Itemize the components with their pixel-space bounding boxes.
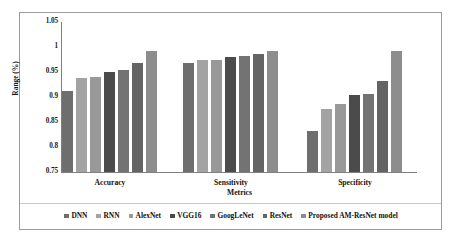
chart-legend: DNNRNNAlexNetVGG16GoogLeNetResNetPropose… bbox=[24, 209, 438, 223]
bar bbox=[76, 78, 87, 173]
legend-label: RNN bbox=[103, 212, 119, 219]
bar bbox=[307, 131, 318, 172]
x-tick-label: Specificity bbox=[307, 178, 403, 187]
bar-group-bars bbox=[183, 22, 279, 172]
chart-figure: Range (%) 1.05 1 0.95 0.9 0.85 0.8 0.75 … bbox=[0, 0, 461, 243]
legend-label: VGG16 bbox=[177, 212, 201, 219]
bar bbox=[363, 94, 374, 173]
y-tick-label: 0.9 bbox=[16, 93, 58, 100]
legend-item[interactable]: GoogLeNet bbox=[210, 212, 253, 219]
y-tick-label: 0.8 bbox=[16, 143, 58, 150]
bar-group-bars bbox=[62, 22, 158, 172]
x-tick-label: Accuracy bbox=[62, 178, 158, 187]
x-tick-label: Sensitivity bbox=[183, 178, 279, 187]
bar-group: Sensitivity bbox=[183, 22, 279, 172]
bar-group: Specificity bbox=[307, 22, 403, 172]
bar bbox=[211, 60, 222, 172]
legend-swatch-icon bbox=[263, 214, 268, 219]
x-axis-title: Metrics bbox=[62, 188, 417, 197]
legend-label: DNN bbox=[71, 212, 87, 219]
legend-swatch-icon bbox=[170, 214, 175, 219]
y-tick-label: 1 bbox=[16, 43, 58, 50]
bar bbox=[349, 95, 360, 172]
y-tick-label: 0.85 bbox=[16, 118, 58, 125]
bar bbox=[132, 63, 143, 172]
bar bbox=[118, 70, 129, 173]
legend-item[interactable]: ResNet bbox=[263, 212, 293, 219]
legend-item[interactable]: VGG16 bbox=[170, 212, 201, 219]
legend-label: ResNet bbox=[270, 212, 293, 219]
legend-item[interactable]: DNN bbox=[64, 212, 87, 219]
legend-swatch-icon bbox=[96, 214, 101, 219]
y-tick-label: 0.75 bbox=[16, 168, 58, 175]
legend-swatch-icon bbox=[129, 214, 134, 219]
bar bbox=[197, 60, 208, 172]
bar bbox=[253, 54, 264, 173]
legend-label: GoogLeNet bbox=[217, 212, 253, 219]
legend-divider bbox=[20, 203, 441, 204]
y-tick-label: 0.95 bbox=[16, 68, 58, 75]
bar bbox=[62, 91, 73, 172]
legend-swatch-icon bbox=[64, 214, 69, 219]
legend-item[interactable]: Proposed AM-ResNet model bbox=[301, 212, 397, 219]
legend-swatch-icon bbox=[210, 214, 215, 219]
legend-item[interactable]: AlexNet bbox=[129, 212, 162, 219]
bar bbox=[183, 63, 194, 172]
bar bbox=[104, 72, 115, 173]
legend-label: Proposed AM-ResNet model bbox=[308, 212, 397, 219]
bar-group-bars bbox=[307, 22, 403, 172]
y-axis-ticks: 1.05 1 0.95 0.9 0.85 0.8 0.75 bbox=[12, 0, 58, 243]
bar-group: Accuracy bbox=[62, 22, 158, 172]
bar bbox=[90, 77, 101, 173]
x-axis-line bbox=[61, 172, 417, 173]
bar bbox=[335, 104, 346, 172]
legend-item[interactable]: RNN bbox=[96, 212, 119, 219]
bar bbox=[391, 51, 402, 173]
legend-swatch-icon bbox=[301, 214, 306, 219]
bar bbox=[239, 56, 250, 172]
bar bbox=[225, 57, 236, 173]
plot-area: AccuracySensitivitySpecificity bbox=[62, 22, 417, 172]
y-tick-label: 1.05 bbox=[16, 18, 58, 25]
bar bbox=[377, 81, 388, 172]
bar bbox=[146, 51, 157, 173]
bar bbox=[267, 51, 278, 172]
legend-label: AlexNet bbox=[136, 212, 161, 219]
bar bbox=[321, 109, 332, 173]
